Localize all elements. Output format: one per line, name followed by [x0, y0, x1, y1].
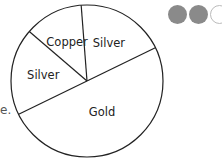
slice-label-copper-2: Copper — [46, 35, 88, 49]
pie-chart: SilverCopperSilverGold — [0, 0, 222, 164]
slice-label-silver-1: Silver — [93, 36, 126, 50]
slice-label-silver-3: Silver — [27, 68, 60, 82]
slice-label-gold-4: Gold — [89, 105, 115, 119]
